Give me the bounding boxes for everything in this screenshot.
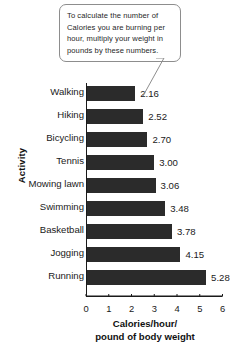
bar-value-label: 4.15 xyxy=(185,247,204,262)
bar-fill xyxy=(86,109,143,124)
bar-track xyxy=(86,178,222,193)
bar-row: Running5.28 xyxy=(0,267,230,290)
callout-annotation: To calculate the number of Calories you … xyxy=(0,0,230,100)
x-tick-label: 3 xyxy=(147,303,161,314)
bar-value-label: 5.28 xyxy=(211,270,230,285)
x-tick-label: 1 xyxy=(102,303,116,314)
x-tick-label: 0 xyxy=(79,303,93,314)
x-axis-tick-labels: 0123456 xyxy=(0,303,230,317)
bar-category-label: Bicycling xyxy=(46,132,84,144)
x-tick-label: 2 xyxy=(125,303,139,314)
bar-fill xyxy=(86,270,206,285)
bar-track xyxy=(86,270,222,285)
bar-row: Basketball3.78 xyxy=(0,221,230,244)
bar-row: Swimming3.48 xyxy=(0,198,230,221)
bar-value-label: 2.70 xyxy=(152,132,171,147)
bar-value-label: 3.78 xyxy=(177,224,196,239)
callout-tail-icon xyxy=(130,58,175,98)
x-tick-label: 5 xyxy=(193,303,207,314)
bar-category-label: Hiking xyxy=(57,109,84,121)
chart-plot-area: Walking2.16Hiking2.52Bicycling2.70Tennis… xyxy=(0,83,230,290)
bar-value-label: 2.52 xyxy=(148,109,167,124)
bar-category-label: Swimming xyxy=(40,201,84,213)
bar-track xyxy=(86,155,222,170)
bar-fill xyxy=(86,247,180,262)
bar-value-label: 3.00 xyxy=(159,155,178,170)
x-axis-title: Calories/hour/ pound of body weight xyxy=(60,318,230,343)
bar-category-label: Basketball xyxy=(40,224,84,236)
bar-fill xyxy=(86,201,165,216)
bar-row: Bicycling2.70 xyxy=(0,129,230,152)
bar-row: Jogging4.15 xyxy=(0,244,230,267)
bar-row: Hiking2.52 xyxy=(0,106,230,129)
bar-track xyxy=(86,201,222,216)
bar-track xyxy=(86,224,222,239)
bar-fill xyxy=(86,132,147,147)
bar-category-label: Running xyxy=(48,270,84,282)
bar-fill xyxy=(86,155,154,170)
bar-row: Tennis3.00 xyxy=(0,152,230,175)
x-tick-label: 4 xyxy=(170,303,184,314)
y-axis-line xyxy=(86,83,87,296)
y-axis-title: Activity xyxy=(16,136,27,196)
bar-category-label: Tennis xyxy=(56,155,84,167)
bar-category-label: Mowing lawn xyxy=(29,178,84,190)
callout-box: To calculate the number of Calories you … xyxy=(59,4,181,62)
bar-row: Mowing lawn3.06 xyxy=(0,175,230,198)
bar-value-label: 3.06 xyxy=(161,178,180,193)
callout-text: To calculate the number of Calories you … xyxy=(67,10,174,56)
bar-fill xyxy=(86,224,172,239)
bar-category-label: Jogging xyxy=(50,247,84,259)
bar-value-label: 3.48 xyxy=(170,201,189,216)
x-tick-label: 6 xyxy=(216,303,230,314)
bar-fill xyxy=(86,178,156,193)
